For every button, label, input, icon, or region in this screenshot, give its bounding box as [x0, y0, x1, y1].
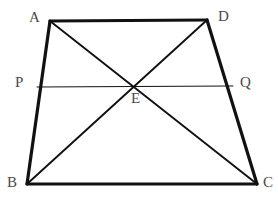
vertex-label-P: P	[15, 75, 23, 90]
side-DC	[207, 20, 257, 184]
diagonal-AC	[50, 21, 257, 184]
vertex-label-B: B	[7, 175, 17, 190]
vertex-label-A: A	[29, 10, 40, 25]
diagonal-BD	[27, 20, 207, 184]
segment-layer	[27, 20, 257, 184]
vertex-label-E: E	[131, 91, 140, 106]
midline-PQ	[37, 86, 233, 87]
side-AD	[50, 20, 207, 21]
vertex-label-D: D	[218, 9, 229, 24]
vertex-label-Q: Q	[240, 75, 251, 90]
vertex-label-C: C	[263, 175, 273, 190]
side-AB	[27, 21, 50, 184]
geometry-figure: A D B C P Q E	[0, 0, 278, 204]
